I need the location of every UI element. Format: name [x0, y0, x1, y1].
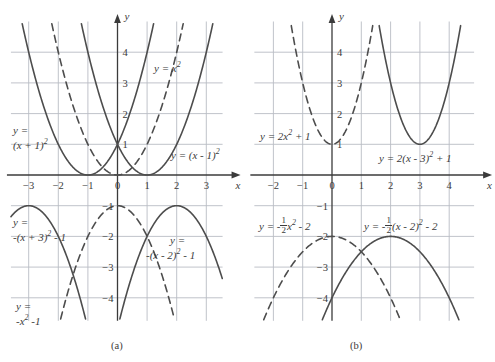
svg-text:3: 3: [417, 180, 422, 191]
svg-text:−2: −2: [53, 180, 64, 191]
label-line2: -(x - 2): [146, 249, 177, 261]
svg-text:0: 0: [115, 180, 120, 191]
label-line1: y =: [16, 300, 31, 312]
svg-text:4: 4: [447, 180, 453, 191]
label-line2-wrap: -(x - 2)2 - 1: [146, 247, 195, 262]
label-line1: y =: [13, 124, 28, 136]
label-2x-squared-plus-1: y = 2x2 + 1: [260, 128, 311, 143]
svg-text:y: y: [124, 10, 130, 22]
label-tail: + 1: [436, 152, 452, 164]
label-neg-x-minus-2-squared-minus-1: y = -(x - 2)2 - 1: [170, 234, 195, 262]
label-neg-half-x-minus-2-squared-minus-2: y = -12(x - 2)2 - 2: [364, 216, 437, 236]
label-neg-x-squared-minus-1: y = -x2 -1: [16, 300, 40, 328]
svg-text:−4: −4: [102, 293, 114, 304]
label-exp: 2: [216, 147, 220, 156]
label-exp: 2: [47, 229, 51, 238]
svg-text:−4: −4: [317, 293, 329, 304]
curves: [11, 24, 461, 320]
svg-text:2: 2: [174, 180, 179, 191]
label-pre: y = -: [364, 220, 385, 232]
svg-text:−2: −2: [268, 180, 279, 191]
label-text: y = (x - 1): [171, 149, 216, 161]
svg-text:3: 3: [123, 78, 128, 89]
axes: [7, 14, 492, 321]
label-line2: -(x + 3): [13, 231, 47, 243]
svg-text:−3: −3: [23, 180, 34, 191]
parabola-transformations-figure: xyxy−3−2−10123−2−1012341234−1−2−3−41234−…: [0, 0, 495, 362]
label-exp: 2: [288, 128, 292, 137]
svg-text:−1: −1: [317, 201, 328, 212]
label-y-equals-x-squared: y = x2: [154, 60, 181, 75]
svg-text:1: 1: [123, 139, 128, 150]
svg-text:−1: −1: [102, 201, 113, 212]
label-tail: - 2: [426, 220, 438, 232]
label-text: y = x: [154, 62, 177, 74]
label-exp: 2: [44, 137, 48, 146]
label-x-minus-1-squared: y = (x - 1)2: [171, 147, 220, 162]
label-2-x-minus-3-squared-plus-1: y = 2(x - 3)2 + 1: [379, 150, 452, 165]
label-text: y = 2(x - 3): [379, 152, 429, 164]
svg-text:−3: −3: [102, 262, 113, 273]
label-exp: 2: [25, 313, 29, 322]
label-text: y = 2x: [260, 130, 288, 142]
gridlines: [11, 22, 474, 321]
svg-text:2: 2: [337, 109, 342, 120]
label-tail: + 1: [295, 130, 311, 142]
label-exp: 2: [429, 150, 433, 159]
label-x-plus-1-squared: y = (x + 1)2: [13, 124, 48, 152]
svg-text:1: 1: [337, 139, 342, 150]
label-pre: y = -: [259, 220, 280, 232]
label-tail: - 1: [54, 231, 66, 243]
label-neg-x-plus-3-squared-minus-1: y = -(x + 3)2 - 1: [13, 216, 66, 244]
label-exp: 2: [177, 247, 181, 256]
svg-text:3: 3: [204, 180, 209, 191]
svg-text:−1: −1: [82, 180, 93, 191]
svg-text:1: 1: [144, 180, 149, 191]
svg-text:x: x: [235, 179, 241, 191]
label-tail: -1: [31, 315, 40, 327]
svg-text:2: 2: [388, 180, 393, 191]
svg-text:0: 0: [329, 180, 334, 191]
svg-text:y: y: [338, 10, 344, 22]
plot-canvas: xyxy−3−2−10123−2−1012341234−1−2−3−41234−…: [0, 0, 495, 362]
label-exp: 2: [292, 218, 296, 227]
label-exp: 2: [419, 218, 423, 227]
label-line1: y =: [13, 216, 28, 228]
label-line1: y =: [170, 234, 185, 246]
svg-text:x: x: [486, 179, 492, 191]
caption-panel-a: (a): [111, 340, 123, 351]
svg-text:1: 1: [359, 180, 364, 191]
svg-text:−3: −3: [317, 262, 328, 273]
label-exp: 2: [177, 60, 181, 69]
label-post: (x - 2): [392, 220, 419, 232]
label-neg-half-x-squared-minus-2: y = -12x2 - 2: [259, 216, 311, 236]
label-tail: - 2: [299, 220, 311, 232]
svg-text:−2: −2: [317, 231, 328, 242]
svg-text:−2: −2: [102, 231, 113, 242]
label-line2: -x: [16, 315, 25, 327]
svg-text:−1: −1: [297, 180, 308, 191]
svg-text:3: 3: [337, 78, 342, 89]
label-tail: - 1: [183, 249, 195, 261]
svg-text:4: 4: [337, 47, 343, 58]
svg-text:2: 2: [123, 109, 128, 120]
svg-text:4: 4: [123, 47, 129, 58]
caption-panel-b: (b): [350, 340, 362, 351]
label-line2: (x + 1): [13, 139, 44, 151]
